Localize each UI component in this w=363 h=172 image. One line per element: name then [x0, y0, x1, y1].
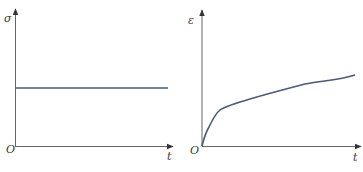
creep-strain-curve	[202, 75, 355, 146]
stress-time-diagram	[15, 9, 173, 147]
sigma-axis-label: σ	[4, 13, 12, 24]
diagram-canvas	[0, 0, 363, 172]
strain-time-diagram	[202, 10, 361, 147]
t-axis-label-left: t	[167, 151, 171, 162]
origin-label-right: O	[190, 145, 199, 156]
epsilon-axis-label: ε	[188, 15, 194, 26]
origin-label-left: O	[6, 144, 15, 155]
t-axis-label-right: t	[353, 152, 357, 163]
